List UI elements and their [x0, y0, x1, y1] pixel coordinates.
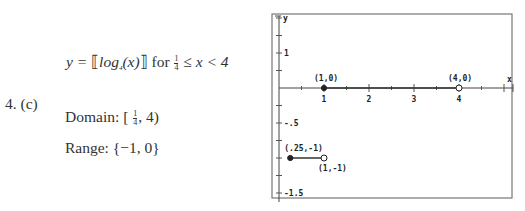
domain-rest: , 4) — [138, 108, 159, 125]
log-argument: (x) — [122, 53, 139, 70]
y-tick-label: -.5 — [284, 119, 299, 128]
floor-open: ⟦ — [91, 53, 99, 70]
y-tick-label: 1 — [284, 49, 289, 58]
for-word: for — [148, 53, 174, 70]
x-tick-label: 1 — [322, 95, 327, 104]
y-tick-label: -1.5 — [284, 189, 303, 198]
function-equation: y = ⟦log4(x)⟧ for 14 ≤ x < 4 — [66, 53, 229, 72]
point-annotation: (.25,-1) — [284, 144, 323, 153]
range-value: {−1, 0} — [113, 139, 160, 156]
equation-lhs: y = — [66, 53, 91, 70]
open-endpoint — [456, 85, 462, 91]
graph: xy 12341-.5-1.5 (1,0)(4,0)(.25,-1)(1,-1) — [270, 12, 515, 202]
open-endpoint — [321, 155, 327, 161]
x-tick-label: 3 — [412, 95, 417, 104]
closed-endpoint — [288, 155, 293, 160]
closed-endpoint — [321, 85, 326, 90]
x-axis-label: x — [507, 75, 512, 84]
x-tick-label: 4 — [457, 95, 462, 104]
y-axis-label: y — [283, 14, 288, 23]
domain-open-bracket: [ — [123, 108, 132, 125]
point-annotation: (1,-1) — [318, 164, 347, 173]
graph-frame — [272, 14, 512, 198]
condition: ≤ x < 4 — [179, 53, 228, 70]
domain-fraction: 14 — [133, 110, 137, 127]
range-label: Range: — [65, 139, 113, 156]
problem-label: 4. (c) — [5, 95, 38, 113]
range-line: Range: {−1, 0} — [65, 139, 160, 157]
domain-line: Domain: [ 14, 4) — [65, 108, 159, 127]
fraction-one-quarter: 14 — [174, 55, 178, 72]
domain-label: Domain: — [65, 108, 123, 125]
x-tick-label: 2 — [367, 95, 372, 104]
point-annotation: (1,0) — [314, 74, 338, 83]
point-annotation: (4,0) — [448, 74, 472, 83]
log-function: log — [99, 53, 119, 70]
floor-close: ⟧ — [140, 53, 148, 70]
